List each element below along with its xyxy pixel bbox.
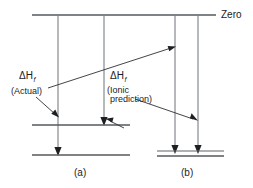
delta-h-actual-label-group: ΔHf (Actual) (11, 70, 42, 96)
panel-a-caption: (a) (74, 167, 86, 178)
actual-label: (Actual) (11, 86, 42, 96)
panel-b-caption: (b) (181, 167, 193, 178)
delta-h-ionic-delta: ΔH (110, 70, 124, 81)
actual-leader-line (36, 97, 55, 114)
delta-h-actual-subscript: f (33, 76, 36, 83)
delta-h-ionic-subscript: f (124, 76, 127, 83)
zero-label: Zero (221, 9, 242, 20)
ionic-label-line2: prediction) (110, 94, 152, 104)
trend-arrow-line (48, 48, 171, 88)
delta-h-ionic-symbol: ΔHf (110, 70, 127, 83)
panel-b-ionic-arrowhead (194, 145, 201, 154)
delta-h-actual-delta: ΔH (19, 70, 33, 81)
ionic-pointer-head (190, 113, 198, 121)
delta-h-ionic-label-group: ΔHf (Ionic prediction) (107, 70, 152, 104)
panel-b-actual-arrowhead (171, 145, 178, 154)
delta-h-actual-symbol: ΔHf (19, 70, 36, 83)
diagram-canvas: Zero ΔHf (Actual) ΔHf (Ionic prediction)… (0, 0, 253, 188)
energy-level-diagram-figure: Zero ΔHf (Actual) ΔHf (Ionic prediction)… (0, 0, 253, 188)
